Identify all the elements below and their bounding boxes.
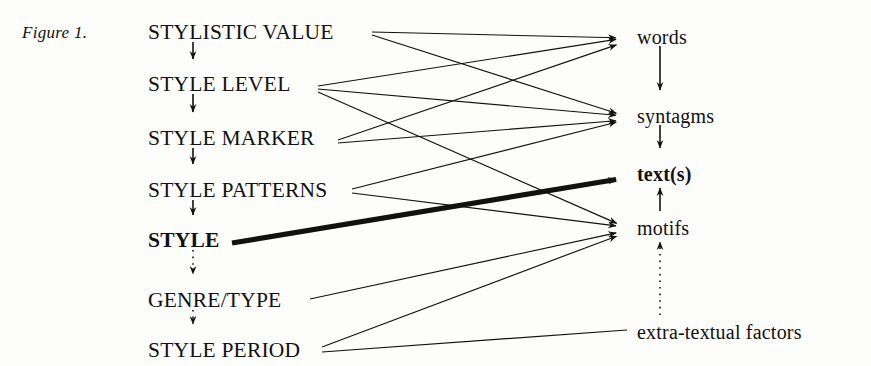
link-style-patterns-syntagms — [352, 122, 616, 189]
figure-caption: Figure 1. — [22, 23, 87, 43]
figure-canvas: Figure 1. STYLISTIC VALUESTYLE LEVELSTYL… — [0, 0, 871, 366]
link-style-marker-syntagms — [338, 121, 616, 143]
link-stylistic-value-syntagms — [372, 35, 616, 113]
link-style-level-words — [318, 39, 616, 86]
link-genre-type-motifs — [310, 233, 616, 299]
node-style: STYLE — [148, 230, 220, 252]
node-stylistic-value: STYLISTIC VALUE — [148, 22, 334, 44]
node-words: words — [637, 27, 687, 47]
link-style-patterns-motifs — [352, 193, 616, 226]
node-extra-textual-factors: extra-textual factors — [637, 322, 802, 342]
node-style-period: STYLE PERIOD — [148, 340, 300, 362]
link-style-period-motifs — [322, 236, 617, 347]
node-syntagms: syntagms — [637, 106, 714, 126]
link-style-marker-words — [338, 45, 616, 140]
node-motifs: motifs — [637, 218, 689, 238]
node-style-marker: STYLE MARKER — [148, 128, 315, 150]
node-texts: text(s) — [637, 164, 692, 184]
link-stylistic-value-words — [372, 32, 616, 38]
edge-layer — [0, 0, 871, 366]
node-style-patterns: STYLE PATTERNS — [148, 180, 327, 202]
link-style-period-extra — [322, 330, 627, 352]
node-style-level: STYLE LEVEL — [148, 74, 291, 96]
node-genre-type: GENRE/TYPE — [148, 290, 281, 312]
